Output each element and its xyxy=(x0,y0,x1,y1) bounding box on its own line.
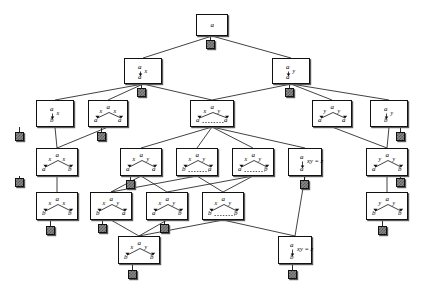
graph-node-box[interactable]: abxy = z xyxy=(278,236,312,264)
vertex-label-left: a xyxy=(238,166,242,173)
graph-node-inner: aax xyxy=(125,59,161,83)
vertex-label-left: b xyxy=(208,210,212,217)
edge-label-equation: xy = z xyxy=(307,158,323,165)
graph-node-inner: aabxx xyxy=(37,149,77,175)
graph-node-box[interactable]: aabxy xyxy=(146,192,188,220)
graph-node-box[interactable]: aaaxx xyxy=(88,100,128,127)
terminal-square[interactable] xyxy=(46,226,55,235)
terminal-square[interactable] xyxy=(97,132,106,141)
vertex-label-right: b xyxy=(264,166,268,173)
vertex-label-left: b xyxy=(182,166,186,173)
terminal-square[interactable] xyxy=(126,180,135,189)
graph-node-box[interactable]: aby xyxy=(370,100,408,127)
vertex-label-bottom: b xyxy=(50,117,54,124)
terminal-square[interactable] xyxy=(300,180,309,189)
vertex-label-top: a xyxy=(211,22,215,29)
vertex-label-right: b xyxy=(150,254,154,261)
vertex-label-left: b xyxy=(96,210,100,217)
graph-node-inner: aaayy xyxy=(313,101,351,126)
graph-node-box[interactable]: aabxy xyxy=(232,148,274,176)
vertex-label-top: a xyxy=(252,152,256,159)
terminal-square[interactable] xyxy=(160,224,169,233)
terminal-square[interactable] xyxy=(396,132,405,141)
vertex-label-right: b xyxy=(398,166,402,173)
edge-label-left: x xyxy=(49,156,52,162)
graph-node-inner: abx xyxy=(37,101,73,126)
graph-node-box[interactable]: aaaxy xyxy=(120,148,162,176)
graph-node-inner: abbxy xyxy=(203,193,243,219)
graph-node-inner: aabyy xyxy=(367,149,407,175)
vertex-label-right: a xyxy=(122,210,126,217)
vertex-label-right: a xyxy=(152,166,156,173)
graph-node-box[interactable]: abbyy xyxy=(366,192,408,220)
graph-node-box[interactable]: aabyy xyxy=(366,148,408,176)
edge-label-right: x xyxy=(114,108,117,114)
graph-node-box[interactable]: abbxx xyxy=(36,192,78,220)
graph-node-box[interactable]: aabxx xyxy=(36,148,78,176)
edge-label-left: y xyxy=(379,200,382,206)
edge-label-right: y xyxy=(173,200,176,206)
vertex-label-left: b xyxy=(372,210,376,217)
terminal-square[interactable] xyxy=(206,40,215,49)
vertex-label-right: b xyxy=(178,210,182,217)
edge-label-right: y xyxy=(259,156,262,162)
graph-node-box[interactable]: aaaxy xyxy=(190,100,234,127)
graph-node-inner: aaxy = z xyxy=(289,149,321,175)
edge-label-left: y xyxy=(324,108,327,114)
vertex-label-left: a xyxy=(196,117,200,124)
terminal-square[interactable] xyxy=(15,132,24,141)
vertex-label-right: b xyxy=(234,210,238,217)
edge-label-left: x xyxy=(159,200,162,206)
terminal-square[interactable] xyxy=(378,226,387,235)
graph-node-box[interactable]: abaxy xyxy=(176,148,218,176)
graph-node-box[interactable]: a xyxy=(196,14,228,36)
vertex-label-right: b xyxy=(68,210,72,217)
vertex-label-right: a xyxy=(208,166,212,173)
terminal-square[interactable] xyxy=(98,224,107,233)
graph-node-inner: aaaxy xyxy=(121,149,161,175)
vertex-label-top: a xyxy=(290,242,294,249)
terminal-square[interactable] xyxy=(128,270,137,279)
vertex-label-top: a xyxy=(196,152,200,159)
edge-label-right: y xyxy=(293,68,296,74)
graph-node-box[interactable]: abbxy xyxy=(118,236,160,264)
edge-label-right: y xyxy=(393,156,396,162)
vertex-label-top: a xyxy=(138,240,142,247)
edge-label-left: x xyxy=(245,156,248,162)
edge-label-right: x xyxy=(63,200,66,206)
edge-label-right: y xyxy=(117,200,120,206)
edge-label-left: x xyxy=(49,200,52,206)
terminal-square[interactable] xyxy=(396,178,405,187)
graph-node-box[interactable]: abbxy xyxy=(202,192,244,220)
vertex-label-top: a xyxy=(331,104,335,111)
graph-node-box[interactable]: aaayy xyxy=(312,100,352,127)
graph-node-box[interactable]: aay xyxy=(272,58,310,84)
vertex-label-top: a xyxy=(386,196,390,203)
graph-node-box[interactable]: abaxy xyxy=(90,192,132,220)
diagram-canvas: aaaxaayabxaaaxxaaaxyaaayyabyaabxxaaaxyab… xyxy=(0,0,427,299)
graph-node-box[interactable]: aaxy = z xyxy=(288,148,322,176)
edge-label-right: x xyxy=(145,68,148,74)
edge-label-right: y xyxy=(229,200,232,206)
terminal-square[interactable] xyxy=(137,88,146,97)
vertex-label-left: a xyxy=(42,166,46,173)
edge-label-right: y xyxy=(218,108,221,114)
terminal-square[interactable] xyxy=(288,270,297,279)
vertex-label-top: a xyxy=(386,152,390,159)
vertex-label-top: a xyxy=(56,196,60,203)
terminal-square[interactable] xyxy=(285,88,294,97)
graph-node-inner: aabxy xyxy=(233,149,273,175)
graph-node-inner: aay xyxy=(273,59,309,83)
edge-label-left: x xyxy=(103,200,106,206)
edge-label-right: y xyxy=(393,200,396,206)
vertex-label-bottom: b xyxy=(384,117,388,124)
vertex-label-top: a xyxy=(384,106,388,113)
graph-node-inner: abaxy xyxy=(91,193,131,219)
terminal-square[interactable] xyxy=(15,178,24,187)
graph-node-box[interactable]: aax xyxy=(124,58,162,84)
edge-label-left: x xyxy=(189,156,192,162)
vertex-label-right: b xyxy=(398,210,402,217)
graph-node-box[interactable]: abx xyxy=(36,100,74,127)
vertex-label-bottom: a xyxy=(138,74,142,81)
graph-node-inner: abxy = z xyxy=(279,237,311,263)
